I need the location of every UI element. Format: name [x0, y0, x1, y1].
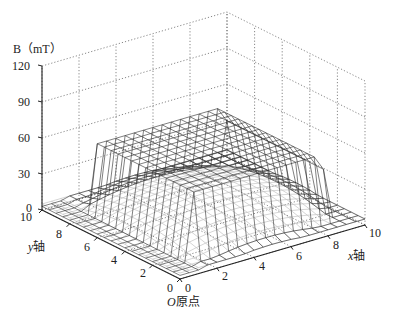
z-axis-label: B（mT）: [13, 43, 62, 55]
x-tick-label: 10: [369, 227, 381, 239]
z-tick-label: 30: [18, 168, 30, 180]
y-tick-label: 8: [56, 228, 62, 240]
y-tick-label: 10: [20, 211, 32, 223]
y-tick-label: 0: [167, 282, 173, 294]
y-axis-label: y轴: [28, 241, 45, 253]
y-tick-label: 4: [111, 254, 117, 266]
measured-surface-mesh: [42, 109, 365, 276]
x-tick-label: 0: [185, 282, 191, 294]
y-axis-suffix: 轴: [33, 240, 45, 254]
z-tick-label: 120: [12, 60, 30, 72]
y-tick-label: 6: [84, 241, 90, 253]
origin-suffix: 原点: [176, 295, 200, 309]
z-tick-label: 60: [18, 132, 30, 144]
x-axis-suffix: 轴: [353, 249, 365, 263]
x-tick-label: 6: [296, 250, 302, 262]
surface-chart: B（mT） 120 90 60 30 0 10 8 6 4 2 0 y轴 0 2…: [0, 0, 394, 319]
x-tick-label: 4: [259, 260, 265, 272]
x-tick-label: 8: [333, 239, 339, 251]
origin-label: O原点: [167, 296, 200, 308]
x-tick-label: 2: [222, 270, 228, 282]
y-tick-label: 2: [140, 267, 146, 279]
model-surface-mesh: [42, 150, 365, 273]
x-axis-label: x轴: [348, 250, 365, 262]
z-tick-label: 90: [18, 96, 30, 108]
origin-var: O: [167, 295, 176, 309]
